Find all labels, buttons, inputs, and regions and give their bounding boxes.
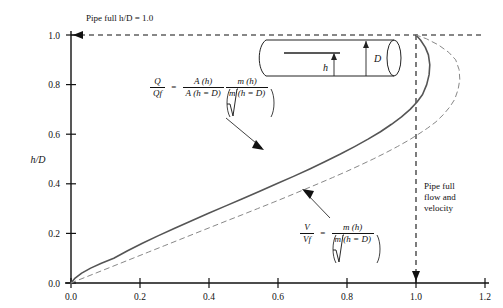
d-arrow-head — [363, 41, 369, 48]
inset-d-label: D — [373, 53, 382, 64]
pipe-right-end — [387, 40, 401, 76]
formula-discharge-ratio: Q Qf = A (h) A (h = D) m (h) m (h = D) — [150, 76, 269, 99]
area-h: A (h) — [183, 76, 224, 88]
x-tick-label: 0.2 — [134, 292, 146, 302]
v-ratio-lhs: V Vf — [300, 222, 314, 245]
area-ratio-term: A (h) A (h = D) — [183, 76, 224, 99]
q-ratio-lhs: Q Qf — [150, 76, 165, 99]
leader-arrow-v — [302, 189, 314, 199]
v-symbol: V — [300, 222, 314, 234]
pipe-inset-diagram: hD — [259, 40, 401, 76]
chart-svg: 0.00.20.40.60.81.00.00.20.40.60.81.01.2h… — [0, 0, 503, 308]
x-tick-label: 1.2 — [479, 292, 491, 302]
reference-arrow-left — [73, 31, 83, 39]
x-tick-label: 0.0 — [65, 292, 77, 302]
x-tick-label: 0.4 — [203, 292, 215, 302]
y-tick-label: 0.0 — [48, 279, 60, 289]
formula-velocity-ratio: V Vf = m (h) m (h = D) — [300, 222, 375, 245]
pipe-left-end — [259, 40, 266, 76]
qf-symbol: Qf — [150, 88, 165, 99]
y-axis-title: h/D — [31, 154, 47, 165]
y-tick-label: 0.2 — [48, 229, 60, 239]
equals-sign-v: = — [316, 228, 329, 238]
figure-canvas: 0.00.20.40.60.81.00.00.20.40.60.81.01.2h… — [0, 0, 503, 308]
inset-h-label: h — [323, 62, 328, 73]
y-tick-label: 1.0 — [48, 31, 60, 41]
pipe-full-top-note: Pipe full h/D = 1.0 — [86, 13, 153, 24]
pipe-full-right-note: Pipe full flow and velocity — [424, 181, 456, 214]
vf-symbol: Vf — [300, 234, 314, 245]
area-h-eq-d: A (h = D) — [183, 88, 224, 99]
y-tick-label: 0.6 — [48, 130, 60, 140]
reference-arrow-down — [412, 271, 420, 281]
h-arrow-head — [331, 53, 337, 60]
right-note-line-1: Pipe full — [424, 181, 456, 192]
x-tick-label: 1.0 — [410, 292, 422, 302]
equals-sign-q: = — [167, 82, 180, 92]
right-note-line-2: flow and — [424, 192, 456, 203]
curve-v-over-vf — [71, 35, 460, 283]
y-tick-label: 0.4 — [48, 179, 60, 189]
y-tick-label: 0.8 — [48, 80, 60, 90]
x-tick-label: 0.6 — [272, 292, 284, 302]
right-note-line-3: velocity — [424, 203, 456, 214]
q-symbol: Q — [150, 76, 165, 88]
x-tick-label: 0.8 — [341, 292, 353, 302]
m-h-q: m (h) — [226, 76, 268, 88]
m-h-v: m (h) — [332, 222, 374, 234]
